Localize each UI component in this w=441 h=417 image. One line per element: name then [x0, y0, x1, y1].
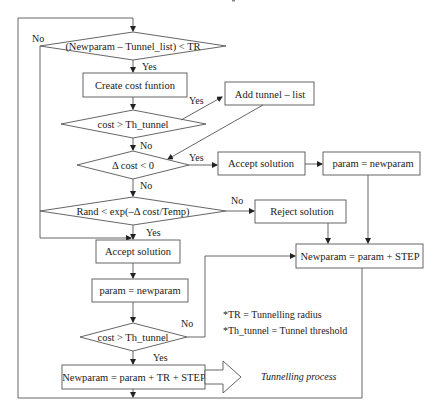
decision-tunnel-radius-text: (Newparam – Tunnel_list) < TR [65, 41, 200, 53]
tunnelling-arrow-icon [205, 361, 241, 393]
accept-solution-text-2: Accept solution [105, 246, 172, 257]
accept-solution-text-1: Accept solution [228, 158, 295, 169]
flowchart: (Newparam – Tunnel_list) < TR No Yes Cre… [0, 0, 441, 417]
decision-delta-cost-text: Δ cost < 0 [112, 160, 154, 171]
note-th-tunnel: *Th_tunnel = Tunnel threshold [223, 325, 347, 336]
d2-yes-label: Yes [189, 95, 204, 106]
decision-metropolis-text: Rand < exp(–Δ cost/Temp) [76, 206, 190, 218]
stray-mark [232, 0, 235, 2]
reject-solution-text: Reject solution [270, 206, 334, 217]
note-tr: *TR = Tunnelling radius [223, 309, 322, 320]
d3-yes-label: Yes [189, 152, 204, 163]
add-tunnel-text: Add tunnel – list [235, 89, 305, 100]
decision-cost-threshold-text: cost > Th_tunnel [97, 119, 168, 130]
d2-no-label: No [140, 140, 152, 151]
create-cost-text: Create cost funtion [95, 80, 176, 91]
d3-no-label: No [140, 180, 152, 191]
add-tunnel-to-d3-connector [168, 105, 263, 159]
d4-yes-label: Yes [146, 227, 161, 238]
newparam-tr-step-text: Newparam = param + TR + STEP [62, 372, 206, 383]
newparam-step-text: Newparam = param + STEP [300, 251, 419, 262]
decision-cost-threshold-2-text: cost > Th_tunnel [97, 332, 168, 343]
param-newparam-text-1: param = newparam [332, 158, 413, 169]
d1-no-label: No [32, 33, 44, 44]
tunnelling-process-label: Tunnelling process [261, 371, 337, 382]
d4-no-label: No [231, 195, 243, 206]
param-newparam-text-2: param = newparam [99, 285, 180, 296]
d5-no-label: No [181, 318, 193, 329]
d1-yes-label: Yes [142, 61, 157, 72]
d5-yes-label: Yes [153, 352, 168, 363]
